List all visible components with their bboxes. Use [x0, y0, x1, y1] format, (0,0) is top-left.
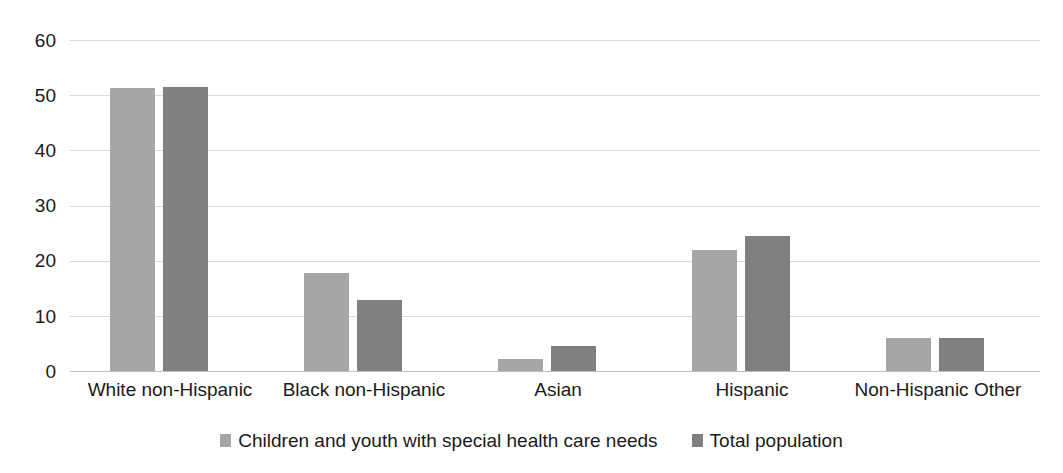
bar-non-hispanic-other-total[interactable]	[939, 338, 984, 371]
plot-area	[70, 40, 1040, 371]
bar-group-asian	[458, 40, 652, 371]
bar-asian-total[interactable]	[551, 346, 596, 371]
legend-label-total-population: Total population	[710, 430, 843, 451]
legend-label-chscn: Children and youth with special health c…	[238, 430, 657, 451]
bar-black-non-hispanic-chscn[interactable]	[304, 273, 349, 371]
bar-hispanic-chscn[interactable]	[692, 250, 737, 371]
bar-white-non-hispanic-chscn[interactable]	[110, 88, 155, 371]
chart-legend: Children and youth with special health c…	[0, 430, 1063, 451]
gridline-0-baseline	[70, 371, 1040, 372]
bar-chart: 60 50 40 30 20 10 0	[0, 0, 1063, 473]
bar-black-non-hispanic-total[interactable]	[357, 300, 402, 371]
legend-item-chscn[interactable]: Children and youth with special health c…	[220, 430, 657, 451]
bar-hispanic-total[interactable]	[745, 236, 790, 371]
bar-group-black-non-hispanic	[264, 40, 458, 371]
x-tick-label-non-hispanic-other: Non-Hispanic Other	[806, 379, 1063, 401]
bar-white-non-hispanic-total[interactable]	[163, 87, 208, 371]
y-tick-label-30: 30	[8, 196, 56, 215]
bar-non-hispanic-other-chscn[interactable]	[886, 338, 931, 371]
y-tick-label-40: 40	[8, 141, 56, 160]
bar-asian-chscn[interactable]	[498, 359, 543, 371]
y-tick-label-50: 50	[8, 86, 56, 105]
y-tick-label-10: 10	[8, 307, 56, 326]
bar-group-hispanic	[652, 40, 846, 371]
legend-item-total-population[interactable]: Total population	[692, 430, 843, 451]
y-tick-label-20: 20	[8, 251, 56, 270]
legend-swatch-icon-total-population	[692, 434, 703, 447]
bar-group-white-non-hispanic	[70, 40, 264, 371]
y-tick-label-60: 60	[8, 31, 56, 50]
legend-swatch-icon-chscn	[220, 434, 231, 447]
bar-group-non-hispanic-other	[846, 40, 1040, 371]
